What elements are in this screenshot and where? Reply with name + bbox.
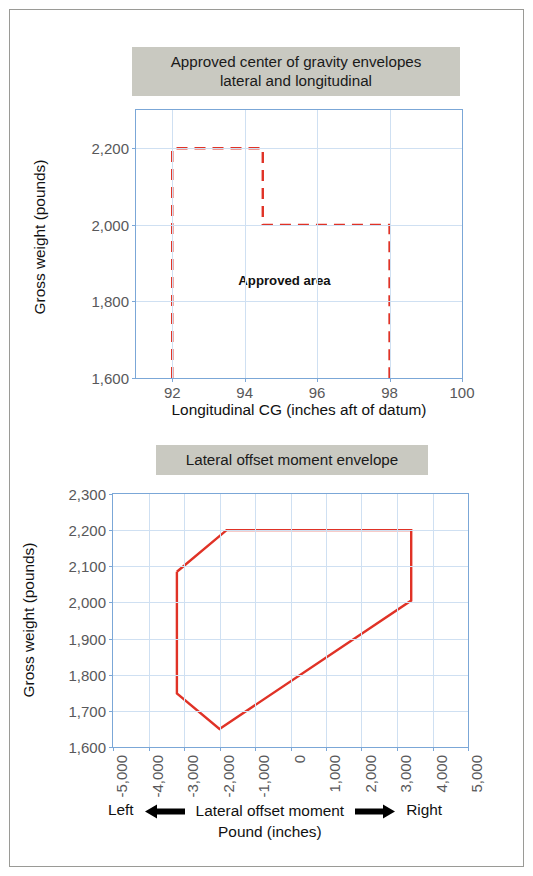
x-axis-tick [172,378,173,382]
x-axis-tick [326,747,327,751]
x-axis-tick-label: 1,000 [326,755,343,793]
y-axis-tick-label: 2,200 [68,522,106,539]
gridline-horizontal [136,148,462,149]
y-axis-tick [109,711,113,712]
gridline-horizontal [136,301,462,302]
chart1-x-axis-title: Longitudinal CG (inches aft of datum) [135,401,463,419]
chart1-y-axis-title: Gross weight (pounds) [31,137,49,337]
x-axis-tick-label: 5,000 [468,755,485,793]
x-axis-tick-label: 3,000 [397,755,414,793]
x-axis-tick-label: -1,000 [255,755,272,798]
gridline-vertical [245,110,246,378]
y-axis-tick-label: 1,700 [68,702,106,719]
chart1-title-band: Approved center of gravity envelopes lat… [132,47,460,96]
y-axis-tick-label: 2,100 [68,558,106,575]
envelope-line [172,148,389,378]
chart-lateral-offset-moment-envelope: Lateral offset moment envelope Gross wei… [10,425,525,868]
x-axis-tick [390,378,391,382]
x-axis-tick-label: 98 [381,384,398,401]
chart2-left-label: Left [108,800,134,819]
y-axis-tick [109,639,113,640]
y-axis-tick-label: 2,300 [68,486,106,503]
chart1-plot-area: Approved area 1,6001,8002,0002,200929496… [135,109,463,379]
y-axis-tick [109,602,113,603]
arrow-left-icon [145,800,185,819]
x-axis-tick [291,747,292,751]
chart2-x-axis-title: Lateral offset moment Pound (inches) [196,800,345,842]
x-axis-tick [462,378,463,382]
x-axis-tick [255,747,256,751]
gridline-vertical [255,494,256,747]
chart2-x-axis-title-line2: Pound (inches) [218,823,322,840]
chart2-title-band: Lateral offset moment envelope [156,445,428,475]
gridline-horizontal [136,225,462,226]
x-axis-tick-label: 96 [309,384,326,401]
x-axis-tick-label: 94 [236,384,253,401]
x-axis-tick [361,747,362,751]
x-axis-tick-label: 0 [291,755,308,763]
x-axis-tick-label: 100 [449,384,474,401]
arrow-right-icon [355,800,395,819]
chart-approved-cg-envelope: Approved center of gravity envelopes lat… [10,10,525,430]
x-axis-tick [149,747,150,751]
x-axis-tick-label: -3,000 [184,755,201,798]
y-axis-tick-label: 2,200 [91,140,129,157]
envelope-line [177,530,411,729]
page-frame: Approved center of gravity envelopes lat… [9,9,524,867]
x-axis-tick [468,747,469,751]
y-axis-tick-label: 2,000 [68,594,106,611]
chart2-y-axis-title: Gross weight (pounds) [20,520,38,720]
gridline-vertical [317,110,318,378]
x-axis-tick [184,747,185,751]
chart1-title-line1: Approved center of gravity envelopes [142,52,450,71]
x-axis-tick [220,747,221,751]
y-axis-tick [132,378,136,379]
y-axis-tick [109,566,113,567]
x-axis-tick-label: 4,000 [433,755,450,793]
chart1-title-line2: lateral and longitudinal [142,71,450,90]
y-axis-tick-label: 2,000 [91,216,129,233]
y-axis-tick [109,675,113,676]
y-axis-tick-label: 1,800 [68,666,106,683]
x-axis-tick [317,378,318,382]
chart2-right-label: Right [406,800,442,819]
gridline-vertical [361,494,362,747]
gridline-vertical [184,494,185,747]
chart1-data-layer [136,110,462,378]
y-axis-tick [109,494,113,495]
gridline-vertical [326,494,327,747]
gridline-vertical [220,494,221,747]
x-axis-tick-label: -4,000 [149,755,166,798]
gridline-vertical [390,110,391,378]
x-axis-tick-label: -2,000 [220,755,237,798]
y-axis-tick [132,225,136,226]
x-axis-tick [433,747,434,751]
x-axis-tick-label: -5,000 [113,755,130,798]
x-axis-tick-label: 2,000 [362,755,379,793]
gridline-vertical [291,494,292,747]
gridline-vertical [172,110,173,378]
gridline-vertical [149,494,150,747]
y-axis-tick [109,530,113,531]
x-axis-tick-label: 92 [164,384,181,401]
y-axis-tick-label: 1,600 [91,370,129,387]
chart2-title-text: Lateral offset moment envelope [166,450,418,469]
x-axis-tick [113,747,114,751]
x-axis-tick [397,747,398,751]
x-axis-tick [245,378,246,382]
y-axis-tick-label: 1,900 [68,630,106,647]
y-axis-tick [132,148,136,149]
gridline-vertical [397,494,398,747]
chart2-x-axis-footer: Left Lateral offset moment Pound (inches… [50,800,500,842]
y-axis-tick-label: 1,800 [91,293,129,310]
y-axis-tick [132,301,136,302]
chart2-plot-area: 1,6001,7001,8001,9002,0002,1002,2002,300… [112,493,469,748]
gridline-vertical [433,494,434,747]
y-axis-tick-label: 1,600 [68,739,106,756]
chart2-x-axis-title-line1: Lateral offset moment [196,802,345,819]
